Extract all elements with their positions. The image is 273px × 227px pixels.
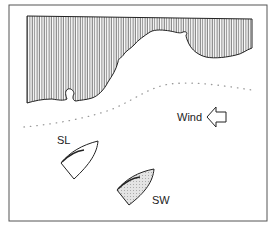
land-hatched-area [27, 16, 252, 103]
diagram-canvas: Wind SL SW [0, 0, 273, 227]
boat-sw-label: SW [152, 194, 170, 206]
boat-sl-icon [61, 141, 98, 179]
boat-sw-icon [117, 169, 154, 205]
boat-sl-label: SL [57, 134, 70, 146]
wind-label: Wind [177, 111, 202, 123]
wind-arrow-icon [207, 107, 226, 127]
